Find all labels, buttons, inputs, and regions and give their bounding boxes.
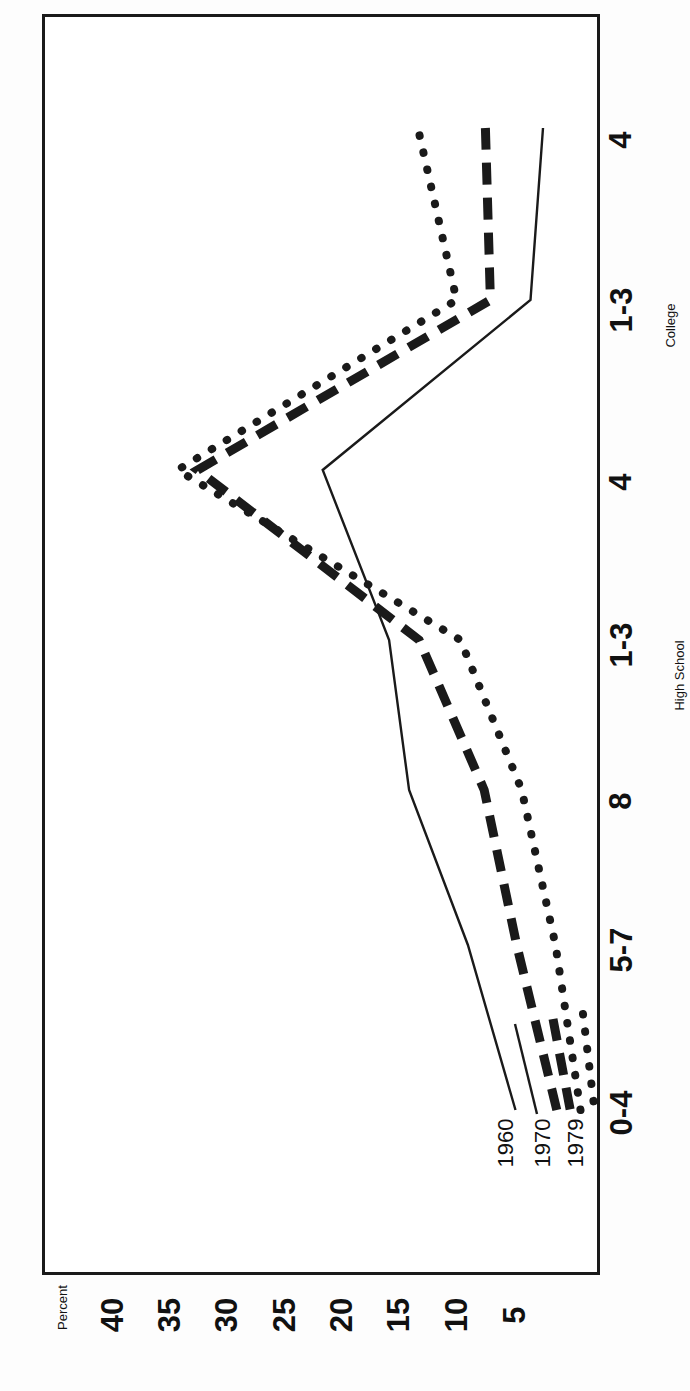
y-axis-title: Percent	[55, 1285, 70, 1330]
x-tick-hs-1-3: 1-3	[604, 623, 640, 668]
x-tick-5-7: 5-7	[604, 928, 640, 973]
y-tick-5: 5	[497, 1306, 533, 1323]
y-tick-10: 10	[439, 1298, 475, 1332]
y-tick-40: 40	[95, 1298, 131, 1332]
y-tick-20: 20	[324, 1298, 360, 1332]
x-group-high-school: High School	[672, 640, 687, 710]
x-tick-col-4: 4	[603, 131, 639, 148]
x-group-college: College	[663, 303, 678, 347]
x-tick-8: 8	[603, 792, 639, 809]
x-tick-hs-4: 4	[603, 473, 639, 490]
series-1960	[323, 128, 543, 1110]
series-1970	[198, 128, 557, 1110]
y-tick-35: 35	[152, 1298, 188, 1332]
x-tick-0-4: 0-4	[604, 1091, 640, 1136]
legend-label-1970: 1970	[530, 1119, 556, 1168]
plot-area	[42, 14, 600, 1275]
chart-page: 1960 1970 1979 Percent 40 35 30 25 20 15…	[0, 0, 690, 1391]
legend-label-1960: 1960	[493, 1119, 519, 1168]
y-tick-30: 30	[209, 1298, 245, 1332]
y-tick-15: 15	[381, 1298, 417, 1332]
legend-label-1979: 1979	[563, 1119, 589, 1168]
x-tick-col-1-3: 1-3	[604, 288, 640, 333]
y-tick-25: 25	[267, 1298, 303, 1332]
